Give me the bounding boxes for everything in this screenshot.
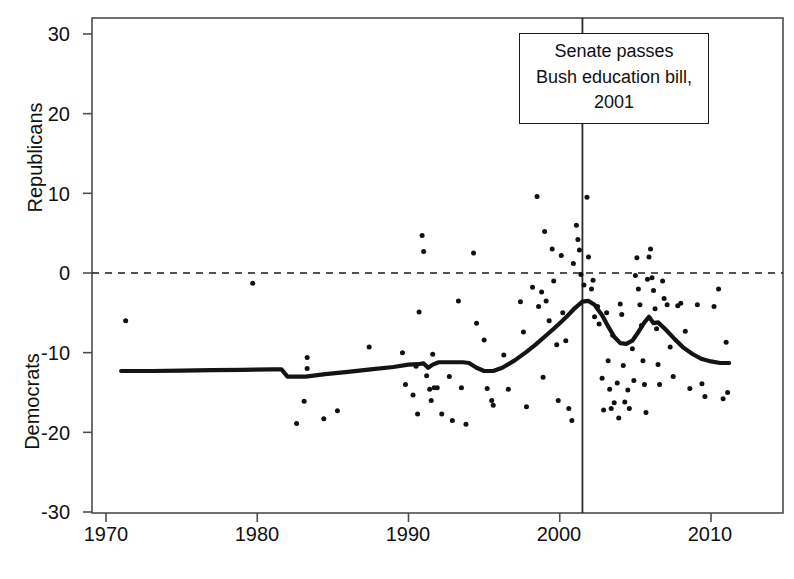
- data-point: [654, 326, 659, 331]
- scatter-points: [123, 194, 730, 427]
- data-point: [636, 286, 641, 291]
- data-point: [550, 247, 555, 252]
- data-point: [554, 342, 559, 347]
- data-point: [668, 345, 673, 350]
- data-point: [435, 385, 440, 390]
- data-point: [294, 421, 299, 426]
- data-point: [665, 302, 670, 307]
- x-tick-label-2000: 2000: [509, 523, 609, 546]
- data-point: [656, 362, 661, 367]
- data-point: [678, 301, 683, 306]
- x-tick-label-2010: 2010: [660, 523, 760, 546]
- annotation-line-3: 2001: [526, 90, 702, 116]
- data-point: [584, 195, 589, 200]
- data-point: [618, 302, 623, 307]
- data-point: [615, 380, 620, 385]
- data-point: [651, 288, 656, 293]
- data-point: [637, 302, 642, 307]
- data-point: [544, 298, 549, 303]
- y-axis-title-republicans: Republicans: [24, 73, 47, 243]
- data-point: [702, 394, 707, 399]
- data-point: [542, 229, 547, 234]
- data-point: [424, 373, 429, 378]
- data-point: [417, 310, 422, 315]
- data-point: [560, 310, 565, 315]
- data-point: [530, 285, 535, 290]
- data-point: [250, 281, 255, 286]
- chart-figure: 30 20 10 0 -10 -20 -30 1970 1980 1990 20…: [0, 0, 794, 579]
- data-point: [305, 366, 310, 371]
- data-point: [660, 278, 665, 283]
- data-point: [724, 340, 729, 345]
- data-point: [321, 416, 326, 421]
- data-point: [535, 194, 540, 199]
- data-point: [578, 272, 583, 277]
- trend-line: [121, 301, 729, 377]
- data-point: [634, 255, 639, 260]
- data-point: [501, 353, 506, 358]
- data-point: [427, 387, 432, 392]
- data-point: [367, 345, 372, 350]
- data-point: [403, 382, 408, 387]
- data-point: [400, 350, 405, 355]
- data-point: [430, 352, 435, 357]
- data-point: [547, 318, 552, 323]
- data-point: [123, 318, 128, 323]
- data-point: [571, 261, 576, 266]
- data-point: [539, 290, 544, 295]
- y-axis-ticks: [83, 34, 92, 512]
- y-tick-label-0: 0: [14, 262, 70, 285]
- data-point: [429, 398, 434, 403]
- data-point: [491, 403, 496, 408]
- data-point: [687, 386, 692, 391]
- x-tick-label-1980: 1980: [207, 523, 307, 546]
- data-point: [695, 302, 700, 307]
- data-point: [592, 314, 597, 319]
- data-point: [518, 299, 523, 304]
- data-point: [524, 404, 529, 409]
- event-annotation-box: Senate passes Bush education bill, 2001: [519, 33, 709, 124]
- data-point: [630, 346, 635, 351]
- data-point: [619, 312, 624, 317]
- data-point: [662, 296, 667, 301]
- x-tick-label-1990: 1990: [358, 523, 458, 546]
- data-point: [302, 399, 307, 404]
- data-point: [556, 398, 561, 403]
- data-point: [563, 338, 568, 343]
- data-point: [653, 306, 658, 311]
- data-point: [489, 398, 494, 403]
- data-point: [559, 253, 564, 258]
- y-tick-label-neg30: -30: [8, 501, 70, 524]
- data-point: [671, 374, 676, 379]
- data-point: [569, 418, 574, 423]
- data-point: [485, 386, 490, 391]
- data-point: [699, 381, 704, 386]
- data-point: [625, 388, 630, 393]
- x-axis-ticks: [106, 513, 711, 522]
- data-point: [725, 390, 730, 395]
- data-point: [411, 392, 416, 397]
- data-point: [646, 255, 651, 260]
- data-point: [474, 321, 479, 326]
- data-point: [712, 304, 717, 309]
- data-point: [574, 223, 579, 228]
- data-point: [622, 400, 627, 405]
- data-point: [536, 304, 541, 309]
- data-point: [612, 400, 617, 405]
- data-point: [463, 422, 468, 427]
- data-point: [648, 247, 653, 252]
- data-point: [541, 375, 546, 380]
- data-point: [633, 273, 638, 278]
- data-point: [609, 406, 614, 411]
- data-point: [335, 408, 340, 413]
- data-point: [482, 337, 487, 342]
- data-point: [621, 363, 626, 368]
- data-point: [447, 374, 452, 379]
- data-point: [640, 358, 645, 363]
- data-point: [586, 255, 591, 260]
- y-axis-title-democrats: Democrats: [21, 317, 44, 487]
- data-point: [450, 418, 455, 423]
- data-point: [657, 382, 662, 387]
- x-tick-label-1970: 1970: [56, 523, 156, 546]
- data-point: [642, 382, 647, 387]
